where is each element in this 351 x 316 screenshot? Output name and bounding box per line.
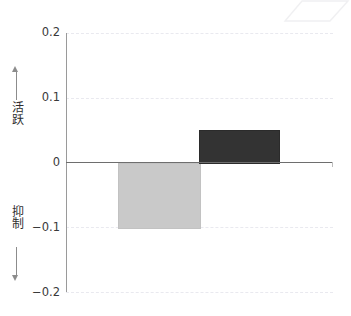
y-tick-label-0.2: 0.2 (42, 27, 60, 38)
y-tick-label-0.1: 0.1 (42, 92, 60, 103)
y-axis-positive-label-text: 活跃 (9, 101, 26, 125)
inhibition-arrow-head-icon (12, 275, 18, 281)
activation-arrow-line-icon (16, 72, 17, 100)
y-axis-positive-label: 活跃 (0, 101, 34, 129)
y-axis-negative-label-text: 抑制 (9, 205, 26, 229)
inhibition-arrow-line-icon (16, 247, 17, 275)
zero-baseline (66, 162, 333, 163)
activation-arrow-head-icon (12, 66, 18, 72)
bar-negative[interactable] (118, 163, 201, 230)
chart-canvas: 0.2 0.1 0 −0.1 −0.2 活跃 抑制 (0, 0, 351, 316)
bar-positive[interactable] (199, 130, 280, 164)
y-axis-ticks: 0.2 0.1 0 −0.1 −0.2 (0, 0, 60, 316)
corner-artifact-shape (272, 0, 350, 28)
gridline-0.2 (66, 33, 333, 34)
zero-baseline-end-tick (332, 162, 333, 167)
gridline--0.2 (66, 292, 333, 293)
gridline-0.1 (66, 98, 333, 99)
y-tick-label--0.1: −0.1 (32, 222, 60, 233)
y-tick-label--0.2: −0.2 (32, 287, 60, 298)
y-axis-negative-label: 抑制 (0, 205, 34, 233)
y-tick-label-0: 0 (53, 157, 60, 168)
